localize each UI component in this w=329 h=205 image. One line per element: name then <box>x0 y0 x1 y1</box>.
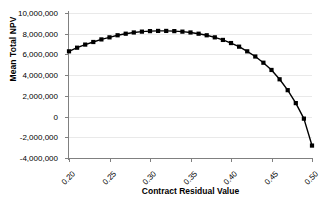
gridline <box>69 96 312 97</box>
gridline <box>69 137 312 138</box>
y-tick-mark <box>65 34 69 35</box>
y-tick-mark <box>65 75 69 76</box>
y-tick-label: 8,000,000 <box>0 30 58 39</box>
y-tick-label: 4,000,000 <box>0 71 58 80</box>
y-tick-label: 10,000,000 <box>0 9 58 18</box>
x-tick-mark <box>110 158 111 162</box>
y-tick-label: 2,000,000 <box>0 92 58 101</box>
y-tick-label: -2,000,000 <box>0 133 58 142</box>
chart-container: Mean Total NPV 10,000,000 8,000,000 6,00… <box>0 0 329 205</box>
plot-area <box>69 13 312 158</box>
gridline <box>69 54 312 55</box>
x-tick-mark <box>312 158 313 162</box>
gridline <box>69 75 312 76</box>
x-axis-title: Contract Residual Value <box>69 186 312 196</box>
y-tick-mark <box>65 96 69 97</box>
y-tick-mark <box>65 13 69 14</box>
y-tick-label: 0 <box>0 113 58 122</box>
gridline <box>69 117 312 118</box>
y-tick-label: 6,000,000 <box>0 50 58 59</box>
x-tick-mark <box>231 158 232 162</box>
y-tick-label: -4,000,000 <box>0 154 58 163</box>
x-tick-mark <box>191 158 192 162</box>
y-tick-mark <box>65 117 69 118</box>
x-tick-mark <box>69 158 70 162</box>
x-tick-mark <box>272 158 273 162</box>
gridline <box>69 34 312 35</box>
y-tick-mark <box>65 54 69 55</box>
gridline <box>69 13 312 14</box>
x-tick-mark <box>150 158 151 162</box>
y-tick-mark <box>65 137 69 138</box>
